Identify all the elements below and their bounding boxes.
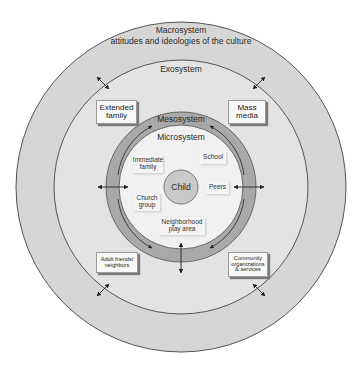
exo-box-line: & services bbox=[235, 267, 261, 273]
mesosystem-label: Mesosystem bbox=[157, 114, 205, 124]
micro-box-school: School bbox=[200, 151, 226, 164]
ecological-systems-diagram: Macrosystem attitudes and ideologies of … bbox=[0, 0, 361, 373]
exo-box-line: family bbox=[106, 112, 127, 120]
exo-box-line: neighbors bbox=[105, 263, 130, 269]
macrosystem-label: Macrosystem bbox=[156, 25, 207, 35]
micro-box-peers: Peers bbox=[206, 181, 229, 194]
micro-box-immediate-family: Immediate family bbox=[133, 155, 163, 173]
micro-box-line: Peers bbox=[209, 184, 226, 191]
exo-box-extended-family: Extended family bbox=[96, 100, 137, 124]
macrosystem-sublabel: attitudes and ideologies of the culture bbox=[111, 36, 252, 46]
micro-box-line: play area bbox=[169, 226, 196, 233]
micro-box-line: School bbox=[203, 154, 223, 161]
microsystem-label: Microsystem bbox=[157, 132, 205, 142]
micro-box-line: group bbox=[139, 202, 156, 209]
child-label: Child bbox=[171, 182, 191, 192]
micro-box-line: family bbox=[140, 164, 157, 171]
micro-box-church-group: Church group bbox=[134, 193, 160, 211]
exo-box-mass-media: Mass media bbox=[228, 100, 266, 124]
exo-box-community: Community organizations & services bbox=[228, 252, 268, 277]
exo-box-line: media bbox=[236, 112, 258, 120]
micro-box-neighborhood: Neighborhood play area bbox=[159, 217, 205, 235]
exosystem-label: Exosystem bbox=[160, 64, 202, 74]
exo-box-adult-friends: Adult friends/ neighbors bbox=[96, 252, 138, 273]
